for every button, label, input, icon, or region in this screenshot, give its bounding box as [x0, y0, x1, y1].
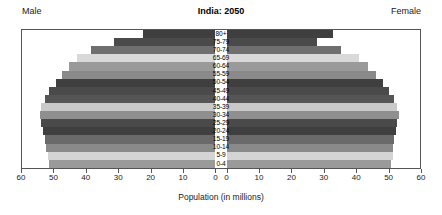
female-half: [221, 135, 420, 143]
axis-tick-label: 50: [384, 173, 393, 182]
female-bar: [227, 71, 377, 79]
female-half: [221, 103, 420, 111]
pyramid-row: 80+: [22, 30, 420, 38]
pyramid-row: 45-49: [22, 87, 420, 95]
female-half: [221, 160, 420, 168]
male-bar: [49, 160, 215, 168]
age-group-label: 65-69: [213, 54, 229, 62]
axis-tick-label: 0: [213, 173, 217, 182]
pyramid-row: 5-9: [22, 152, 420, 160]
male-half: [22, 62, 221, 70]
axis-tick-label: 40: [81, 173, 90, 182]
male-bar: [45, 135, 216, 143]
female-half: [221, 54, 420, 62]
pyramid-row: 40-44: [22, 95, 420, 103]
female-bar: [227, 119, 398, 127]
age-group-label: 35-39: [213, 103, 229, 111]
male-bar: [45, 95, 216, 103]
age-group-label: 75-79: [213, 38, 229, 46]
pyramid-row: 70-74: [22, 46, 420, 54]
pyramid-row: 35-39: [22, 103, 420, 111]
female-half: [221, 62, 420, 70]
pyramid-row: 50-54: [22, 79, 420, 87]
age-group-label: 70-74: [213, 46, 229, 54]
x-axis: 60504030201000102030405060: [21, 169, 421, 182]
age-group-label: 25-29: [213, 119, 229, 127]
male-half: [22, 38, 221, 46]
axis-tick-label: 10: [255, 173, 264, 182]
male-bar: [40, 111, 216, 119]
female-bar: [227, 160, 391, 168]
male-half: [22, 144, 221, 152]
male-bar: [41, 119, 215, 127]
age-group-label: 50-54: [213, 79, 229, 87]
pyramid-row: 25-29: [22, 119, 420, 127]
axis-tick-label: 30: [114, 173, 123, 182]
male-bar: [143, 30, 216, 38]
male-bar: [56, 79, 216, 87]
male-bar: [43, 127, 215, 135]
male-bar: [46, 144, 215, 152]
pyramid-row: 65-69: [22, 54, 420, 62]
axis-tick-label: 40: [352, 173, 361, 182]
pyramid-row: 60-64: [22, 62, 420, 70]
female-half: [221, 144, 420, 152]
age-group-label: 45-49: [213, 87, 229, 95]
male-half: [22, 127, 221, 135]
female-bar: [227, 127, 396, 135]
pyramid-row: 15-19: [22, 135, 420, 143]
female-half: [221, 127, 420, 135]
female-half: [221, 152, 420, 160]
axis-tick-label: 0: [224, 173, 228, 182]
pyramid-row: 0-4: [22, 160, 420, 168]
axis-tick-label: 60: [17, 173, 26, 182]
age-group-label: 40-44: [213, 95, 229, 103]
female-bar: [227, 95, 395, 103]
plot-area: 80+75-7970-7465-6960-6455-5950-5445-4940…: [21, 29, 421, 169]
age-group-label: 60-64: [213, 62, 229, 70]
female-bar: [227, 30, 333, 38]
female-half: [221, 46, 420, 54]
male-half: [22, 71, 221, 79]
female-bar: [227, 62, 369, 70]
pyramid-row: 55-59: [22, 71, 420, 79]
axis-tick-label: 10: [179, 173, 188, 182]
female-half: [221, 30, 420, 38]
female-half: [221, 71, 420, 79]
female-bar: [227, 111, 399, 119]
chart-title: India: 2050: [0, 6, 442, 16]
axis-tick-label: 20: [146, 173, 155, 182]
male-bar: [91, 46, 215, 54]
axis-tick-label: 60: [417, 173, 426, 182]
male-bar: [62, 71, 215, 79]
age-group-label: 30-34: [213, 111, 229, 119]
axis-tick-label: 20: [287, 173, 296, 182]
female-bar: [227, 38, 317, 46]
female-bar: [227, 54, 359, 62]
male-half: [22, 160, 221, 168]
age-group-label: 0-4: [216, 160, 225, 168]
female-side-label: Female: [391, 6, 421, 16]
x-axis-title: Population (in millions): [0, 192, 442, 202]
pyramid-row: 75-79: [22, 38, 420, 46]
male-bar: [48, 152, 216, 160]
male-half: [22, 95, 221, 103]
female-half: [221, 38, 420, 46]
age-group-label: 15-19: [213, 135, 229, 143]
male-bar: [77, 54, 216, 62]
age-group-label: 10-14: [213, 144, 229, 152]
age-group-label: 20-24: [213, 127, 229, 135]
age-group-label: 55-59: [213, 71, 229, 79]
pyramid-row: 10-14: [22, 144, 420, 152]
male-half: [22, 54, 221, 62]
female-half: [221, 119, 420, 127]
male-half: [22, 103, 221, 111]
female-bar: [227, 152, 393, 160]
male-bar: [69, 62, 216, 70]
female-bar: [227, 135, 395, 143]
population-pyramid-chart: Male India: 2050 Female 80+75-7970-7465-…: [0, 0, 442, 215]
female-bar: [227, 46, 341, 54]
male-half: [22, 111, 221, 119]
male-half: [22, 135, 221, 143]
female-half: [221, 79, 420, 87]
